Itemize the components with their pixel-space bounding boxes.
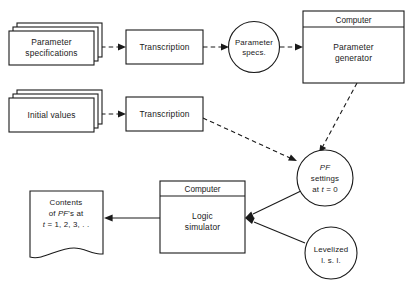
transcription-top-label: Transcription [139,42,189,52]
flowchart-canvas: Parameter specifications Transcription P… [0,0,414,293]
node-contents-document[interactable]: Contents of PF's at t = 1, 2, 3, . . [30,191,103,258]
edge-logic-simulator-to-contents [104,214,160,221]
contents-line2-prefix: of [49,209,58,218]
edge-transcription-bottom-to-pf-settings [203,118,297,161]
edge-generator-to-pf-settings [319,83,357,153]
node-levelized-circle[interactable]: Levelized l. s. l. [305,227,357,279]
node-parameter-specs-circle[interactable]: Parameter specs. [229,22,280,73]
node-transcription-top[interactable]: Transcription [126,30,203,64]
contents-line2-suffix: 's at [68,209,84,218]
pf-settings-line3-suffix: = 0 [324,185,338,194]
computer-logic-simulator-label-line2: simulator [185,222,220,232]
initial-values-label: Initial values [27,110,75,120]
node-transcription-bottom[interactable]: Transcription [126,97,203,131]
parameter-specifications-label-line2: specifications [25,48,77,58]
parameter-specs-circle-label-line1: Parameter [235,38,273,47]
node-pf-settings-circle[interactable]: PF settings at t = 0 [297,150,353,206]
node-parameter-specifications[interactable]: Parameter specifications [9,23,102,65]
node-computer-logic-simulator[interactable]: Computer Logic simulator [160,181,245,253]
computer-parameter-generator-label-line2: generator [335,53,372,63]
computer-logic-simulator-label-line1: Logic [192,211,213,221]
contents-label-line1: Contents [50,198,83,207]
parameter-specs-circle-label-line2: specs. [242,48,266,57]
levelized-label-line1: Levelized [314,245,349,254]
edge-pf-settings-to-logic-simulator [245,190,303,218]
computer-parameter-generator-header: Computer [336,16,372,25]
computer-parameter-generator-label-line1: Parameter [333,42,374,52]
pf-settings-line3-prefix: at [312,185,321,194]
contents-line3-suffix: = 1, 2, 3, . . [45,220,89,229]
contents-label-line2: of PF's at [49,209,84,218]
parameter-specifications-label-line1: Parameter [31,37,72,47]
computer-logic-simulator-header: Computer [185,185,221,194]
edge-transcription-to-specs-circle [203,44,229,51]
levelized-label-line2: l. s. l. [321,256,341,265]
edge-specs-circle-to-generator [280,44,303,51]
pf-settings-label-line3: at t = 0 [312,185,338,194]
pf-settings-label-line2: settings [311,174,339,183]
edge-initial-values-to-transcription [101,111,126,118]
edge-specs-to-transcription [101,44,126,51]
flowchart-diagram: Parameter specifications Transcription P… [0,0,414,293]
pf-settings-label-line1: PF [320,163,331,172]
node-computer-parameter-generator[interactable]: Computer Parameter generator [303,11,404,83]
edge-levelized-to-logic-simulator [245,218,305,243]
contents-label-line3: t = 1, 2, 3, . . [43,220,89,229]
transcription-bottom-label: Transcription [139,109,189,119]
node-initial-values[interactable]: Initial values [9,90,102,132]
